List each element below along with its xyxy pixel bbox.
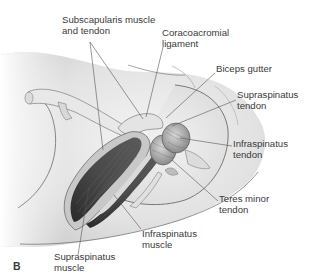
label-subscapularis-line2: and tendon (62, 26, 155, 37)
panel-label: B (13, 260, 21, 272)
label-subscapularis-line1: Subscapularis muscle (62, 15, 155, 26)
label-infraspinatus-tendon: Infraspinatus tendon (233, 139, 288, 160)
label-infraspinatus-tendon-line1: Infraspinatus (233, 139, 288, 150)
label-infraspinatus-muscle-line1: Infraspinatus (142, 229, 197, 240)
label-supraspinatus-muscle-line1: Supraspinatus (54, 252, 115, 263)
label-teres-minor-tendon-line2: tendon (219, 205, 269, 216)
label-supraspinatus-tendon-line1: Supraspinatus (237, 90, 298, 101)
label-supraspinatus-muscle-line2: muscle (54, 263, 115, 274)
label-infraspinatus-muscle-line2: muscle (142, 240, 197, 251)
label-supraspinatus-tendon: Supraspinatus tendon (237, 90, 298, 111)
label-teres-minor-tendon: Teres minor tendon (219, 194, 269, 215)
label-supraspinatus-tendon-line2: tendon (237, 101, 298, 112)
label-biceps-gutter-line1: Biceps gutter (216, 64, 272, 75)
label-subscapularis: Subscapularis muscle and tendon (62, 15, 155, 36)
label-infraspinatus-tendon-line2: tendon (233, 150, 288, 161)
label-coracoacromial-ligament: Coracoacromial ligament (162, 28, 229, 49)
label-supraspinatus-muscle: Supraspinatus muscle (54, 252, 115, 273)
label-coracoacromial-line1: Coracoacromial (162, 28, 229, 39)
label-biceps-gutter: Biceps gutter (216, 64, 272, 75)
label-coracoacromial-line2: ligament (162, 39, 229, 50)
label-teres-minor-tendon-line1: Teres minor (219, 194, 269, 205)
label-infraspinatus-muscle: Infraspinatus muscle (142, 229, 197, 250)
